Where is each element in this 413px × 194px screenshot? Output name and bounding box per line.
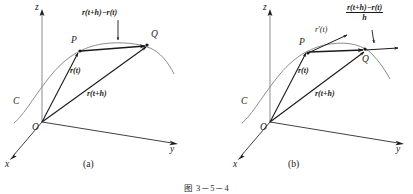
panel-b-vector-label-rt: r(t) [298, 67, 309, 75]
panel-b-quotient-denominator: h [346, 13, 383, 22]
panel-b-y-axis [270, 122, 404, 145]
panel-b-z-axis [268, 9, 273, 122]
panel-a-point-label-o: O [32, 123, 39, 133]
panel-b-curve-label-c: C [241, 97, 247, 107]
panel-b-quotient-numerator: r(t+h)−r(t) [346, 3, 383, 13]
panel-b-vector-rth [270, 52, 364, 122]
panel-b-chord-pq [309, 50, 363, 52]
panel-b-quotient-leader [372, 30, 374, 43]
panel-a-axis-label-z: z [35, 3, 39, 13]
panel-a-vector-rth [42, 47, 146, 122]
panel-a-curve-label-c: C [13, 97, 19, 107]
panel-b-vector-rt [270, 53, 306, 122]
panel-a-y-axis [42, 122, 178, 145]
panel-b-axis-label-x: x [233, 160, 237, 170]
panel-b-point-label-o: O [260, 123, 267, 133]
panel-b-axis-label-z: z [263, 3, 267, 13]
panel-a-point-label-p: P [71, 36, 77, 46]
panel-b-point-q-dot [363, 47, 366, 50]
panel-a-point-p-dot [78, 49, 81, 52]
panel-a-vector-label-rt: r(t) [70, 67, 81, 75]
panel-b-point-p-dot [306, 51, 309, 54]
figure-vector-graphics [0, 0, 413, 194]
panel-a-vector-label-rth: r(t+h) [87, 90, 107, 98]
panel-a-axis-label-x: x [5, 160, 9, 170]
panel-b-vector-label-derivative: r′(t) [315, 26, 327, 34]
panel-a-point-label-q: Q [151, 30, 158, 40]
panel-a-point-q-dot [145, 43, 148, 46]
panel-a-axis-label-y: y [170, 145, 174, 155]
figure-container: z x y O P Q C r(t) r(t+h) r(t+h)−r(t) (a… [0, 0, 413, 194]
panel-b-axis-label-y: y [396, 145, 400, 155]
panel-a-caption: (a) [83, 160, 94, 170]
panel-b-point-label-q: Q [362, 55, 369, 65]
panel-a-vector-rt [42, 53, 78, 122]
panel-b-difference-quotient: r(t+h)−r(t) h [346, 3, 383, 22]
panel-a-vector-label-difference: r(t+h)−r(t) [82, 9, 117, 17]
panel-b-quotient-vector [365, 48, 398, 50]
figure-caption: 图 3－5－4 [0, 181, 413, 193]
panel-b-caption: (b) [288, 160, 299, 170]
panel-b-vector-label-rth: r(t+h) [315, 90, 335, 98]
panel-a-z-axis [40, 9, 45, 122]
panel-b-point-label-p: P [299, 38, 305, 48]
panel-a-curve-c [14, 43, 174, 123]
